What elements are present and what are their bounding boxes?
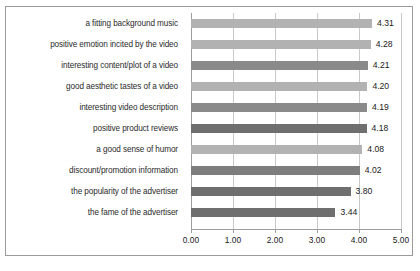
category-label: good aesthetic tastes of a video [6, 76, 184, 97]
bar-track: 4.19 [191, 97, 401, 118]
bar-value-label: 4.18 [367, 118, 389, 139]
category-label: positive product reviews [6, 118, 184, 139]
x-tick-3.00 [317, 229, 318, 233]
bar-track: 4.28 [191, 34, 401, 55]
bar-track: 4.18 [191, 118, 401, 139]
category-label: interesting content/plot of a video [6, 55, 184, 76]
category-label: a good sense of humor [6, 139, 184, 160]
bar-value-label: 3.44 [335, 202, 357, 223]
category-label: interesting video description [6, 97, 184, 118]
bar-value-label: 4.31 [372, 13, 394, 34]
category-label: discount/promotion information [6, 160, 184, 181]
bar-track: 4.08 [191, 139, 401, 160]
chart-row: a good sense of humor4.08 [6, 139, 412, 160]
bar-track: 4.20 [191, 76, 401, 97]
category-label: the fame of the advertiser [6, 202, 184, 223]
chart-row: interesting video description4.19 [6, 97, 412, 118]
bar-track: 3.44 [191, 202, 401, 223]
x-tick-label: 0.00 [171, 235, 211, 245]
chart-row: positive product reviews4.18 [6, 118, 412, 139]
x-tick-2.00 [275, 229, 276, 233]
bar-track: 4.31 [191, 13, 401, 34]
bar-track: 4.02 [191, 160, 401, 181]
chart-row: interesting content/plot of a video4.21 [6, 55, 412, 76]
category-label: positive emotion incited by the video [6, 34, 184, 55]
bar[interactable] [191, 40, 371, 49]
bar-value-label: 4.20 [367, 76, 389, 97]
chart-row: discount/promotion information4.02 [6, 160, 412, 181]
bar-value-label: 4.28 [371, 34, 393, 55]
bar-value-label: 4.08 [362, 139, 384, 160]
bar[interactable] [191, 61, 368, 70]
bar[interactable] [191, 103, 367, 112]
bar-value-label: 3.80 [351, 181, 373, 202]
bar[interactable] [191, 124, 367, 133]
category-label: a fitting background music [6, 13, 184, 34]
chart-row: a fitting background music4.31 [6, 13, 412, 34]
chart-row: positive emotion incited by the video4.2… [6, 34, 412, 55]
x-tick-label: 3.00 [297, 235, 337, 245]
chart-figure: 0.001.002.003.004.005.00a fitting backgr… [5, 6, 413, 256]
x-tick-5.00 [401, 229, 402, 233]
x-tick-label: 5.00 [381, 235, 420, 245]
chart-row: the popularity of the advertiser3.80 [6, 181, 412, 202]
bar[interactable] [191, 82, 367, 91]
bar-track: 4.21 [191, 55, 401, 76]
chart-row: the fame of the advertiser3.44 [6, 202, 412, 223]
x-tick-0.00 [191, 229, 192, 233]
bar[interactable] [191, 208, 335, 217]
x-tick-4.00 [359, 229, 360, 233]
bar[interactable] [191, 187, 351, 196]
category-label: the popularity of the advertiser [6, 181, 184, 202]
bar-track: 3.80 [191, 181, 401, 202]
x-axis-line [191, 229, 402, 230]
bar-value-label: 4.21 [368, 55, 390, 76]
plot-area: 0.001.002.003.004.005.00a fitting backgr… [6, 7, 412, 255]
x-tick-label: 4.00 [339, 235, 379, 245]
bar[interactable] [191, 166, 360, 175]
x-tick-label: 1.00 [213, 235, 253, 245]
x-tick-1.00 [233, 229, 234, 233]
bar[interactable] [191, 19, 372, 28]
bar-value-label: 4.19 [367, 97, 389, 118]
bar[interactable] [191, 145, 362, 154]
x-tick-label: 2.00 [255, 235, 295, 245]
bar-value-label: 4.02 [360, 160, 382, 181]
chart-row: good aesthetic tastes of a video4.20 [6, 76, 412, 97]
